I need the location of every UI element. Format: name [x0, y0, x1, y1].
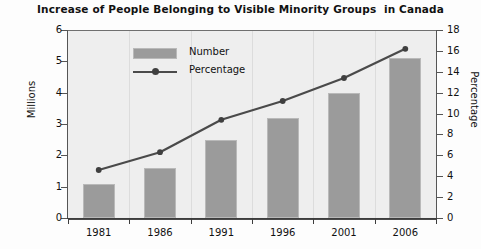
x-axis-tick-label: 1981 — [86, 227, 111, 238]
y-axis-tick-right — [437, 134, 443, 135]
bar-1991 — [205, 140, 237, 218]
y-axis-tick-label-right: 4 — [447, 171, 453, 181]
y-axis-title-right: Percentage — [469, 45, 480, 155]
y-axis-tick-label-left: 5 — [56, 56, 62, 66]
axis-spine-right — [436, 30, 437, 219]
x-axis-tick — [436, 219, 437, 224]
y-axis-tick-label-left: 6 — [56, 25, 62, 35]
x-axis-tick — [191, 219, 192, 224]
y-axis-tick-label-right: 0 — [447, 213, 453, 223]
y-axis-tick-label-right: 16 — [447, 46, 460, 56]
bar-1986 — [144, 168, 176, 218]
y-axis-tick-label-left: 2 — [56, 150, 62, 160]
y-axis-tick-right — [437, 72, 443, 73]
x-axis-tick-label: 1986 — [147, 227, 172, 238]
x-axis-tick — [313, 219, 314, 224]
x-axis-tick — [252, 219, 253, 224]
legend-label-percentage: Percentage — [189, 64, 245, 75]
axis-spine-left — [67, 30, 68, 219]
y-axis-tick-label-right: 18 — [447, 25, 460, 35]
x-axis-tick-label: 2001 — [331, 227, 356, 238]
y-axis-tick-label-right: 10 — [447, 109, 460, 119]
plot-group-separator — [375, 31, 376, 219]
y-axis-tick-label-right: 2 — [447, 192, 453, 202]
y-axis-tick-right — [437, 93, 443, 94]
y-axis-tick-label-right: 12 — [447, 88, 460, 98]
y-axis-tick-right — [437, 51, 443, 52]
y-axis-tick-label-right: 6 — [447, 150, 453, 160]
bar-swatch-icon — [133, 48, 177, 59]
chart-title: Increase of People Belonging to Visible … — [0, 3, 481, 15]
y-axis-tick-label-right: 8 — [447, 129, 453, 139]
plot-group-separator — [191, 31, 192, 219]
x-axis-tick-label: 1996 — [270, 227, 295, 238]
y-axis-tick-right — [437, 176, 443, 177]
y-axis-tick-right — [437, 218, 443, 219]
y-axis-tick-label-left: 0 — [56, 213, 62, 223]
plot-group-separator — [313, 31, 314, 219]
plot-area — [68, 30, 436, 220]
x-axis-tick — [129, 219, 130, 224]
x-axis-tick-label: 1991 — [209, 227, 234, 238]
y-axis-tick-label-left: 4 — [56, 88, 62, 98]
chart-figure: Increase of People Belonging to Visible … — [0, 0, 481, 249]
bar-2001 — [328, 93, 360, 218]
legend-label-number: Number — [189, 46, 229, 57]
x-axis-tick — [68, 219, 69, 224]
x-axis-tick-label: 2006 — [393, 227, 418, 238]
y-axis-tick-right — [437, 155, 443, 156]
plot-group-separator — [129, 31, 130, 219]
y-axis-tick-label-left: 3 — [56, 119, 62, 129]
y-axis-tick-label-left: 1 — [56, 182, 62, 192]
plot-inner — [68, 31, 436, 219]
y-axis-tick-right — [437, 30, 443, 31]
plot-group-separator — [252, 31, 253, 219]
x-axis-tick — [375, 219, 376, 224]
y-axis-title-left: Millions — [26, 55, 37, 145]
y-axis-tick-right — [437, 197, 443, 198]
y-axis-tick-label-right: 14 — [447, 67, 460, 77]
bar-2006 — [389, 58, 421, 218]
bar-1996 — [267, 118, 299, 218]
y-axis-tick-right — [437, 114, 443, 115]
axis-spine-top — [67, 30, 437, 31]
line-marker-dot-icon — [152, 68, 159, 75]
bar-1981 — [83, 184, 115, 218]
